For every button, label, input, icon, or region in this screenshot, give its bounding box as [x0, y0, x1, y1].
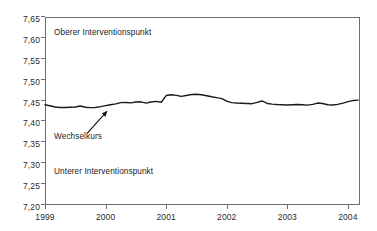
plot-area: [45, 17, 360, 205]
x-axis-tick-mark: [287, 205, 288, 209]
x-axis-tick-label: 2001: [139, 212, 193, 222]
x-axis-tick-label: 2002: [200, 212, 254, 222]
y-axis-tick: 7,65: [0, 10, 45, 24]
x-axis: 199920002001200220032004: [45, 205, 360, 231]
y-axis-tick-label: 7,35: [23, 137, 45, 151]
y-axis-tick: 7,35: [0, 135, 45, 149]
y-axis-tick: 7,60: [0, 31, 45, 45]
y-axis-tick-label: 7,45: [23, 96, 45, 110]
annotation-unterer-interventionspunkt: Unterer Interventionspunkt: [54, 167, 153, 176]
y-axis-tick-label: 7,65: [23, 12, 45, 26]
annotation-oberer-interventionspunkt: Oberer Interventionspunkt: [54, 28, 151, 37]
x-axis-tick-label: 1999: [18, 212, 72, 222]
y-axis-tick-label: 7,50: [23, 75, 45, 89]
y-axis-tick: 7,20: [0, 198, 45, 212]
x-axis-tick-mark: [45, 205, 46, 209]
y-axis: 7,207,257,307,357,407,457,507,557,607,65: [0, 10, 45, 212]
annotation-wechselkurs: Wechselkurs: [54, 132, 102, 141]
y-axis-tick: 7,50: [0, 73, 45, 87]
y-axis-tick: 7,25: [0, 177, 45, 191]
x-axis-tick-label: 2004: [321, 212, 375, 222]
x-axis-tick-mark: [227, 205, 228, 209]
y-axis-tick: 7,45: [0, 94, 45, 108]
y-axis-tick: 7,55: [0, 52, 45, 66]
y-axis-tick: 7,30: [0, 156, 45, 170]
y-axis-tick-label: 7,30: [23, 158, 45, 172]
x-axis-tick-mark: [106, 205, 107, 209]
y-axis-tick-label: 7,60: [23, 33, 45, 47]
exchange-rate-chart: 7,207,257,307,357,407,457,507,557,607,65…: [0, 0, 377, 231]
y-axis-tick: 7,40: [0, 114, 45, 128]
x-axis-tick-mark: [348, 205, 349, 209]
y-axis-tick-label: 7,55: [23, 54, 45, 68]
x-axis-tick-mark: [166, 205, 167, 209]
x-axis-tick-label: 2000: [79, 212, 133, 222]
y-axis-tick-label: 7,25: [23, 179, 45, 193]
y-axis-tick-label: 7,40: [23, 116, 45, 130]
x-axis-tick-label: 2003: [260, 212, 314, 222]
